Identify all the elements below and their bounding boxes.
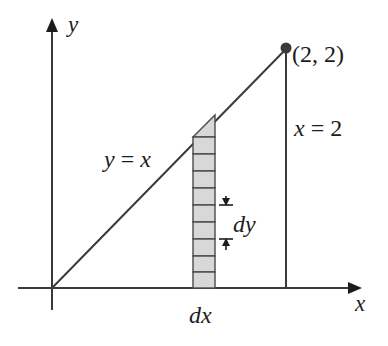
dy-measure	[219, 196, 233, 250]
region-boundaries	[52, 49, 286, 288]
strip-cell	[193, 272, 215, 288]
vertical-line-label: x = 2	[294, 116, 342, 140]
strip-cell	[193, 154, 215, 171]
point-label: (2, 2)	[292, 42, 344, 66]
strip-cell	[193, 188, 215, 205]
dx-label: dx	[189, 303, 212, 327]
math-figure: y x (2, 2) y = x x = 2 dx dy	[0, 0, 388, 346]
x-axis-label: x	[355, 292, 365, 315]
strip-cell	[193, 239, 215, 256]
strip-cell	[193, 137, 215, 154]
strip-cell	[193, 171, 215, 188]
y-axis-label: y	[68, 13, 78, 36]
line-y-equals-x	[52, 49, 286, 288]
strip-cell-top-triangle	[193, 115, 215, 137]
point-marker-2-2	[281, 43, 292, 54]
strip-cell	[193, 222, 215, 239]
strip-cell	[193, 256, 215, 272]
y-axis-arrowhead-icon	[46, 18, 58, 32]
strip-cell	[193, 205, 215, 222]
differential-strip	[193, 115, 215, 288]
line-equation-label: y = x	[104, 147, 151, 171]
dy-label: dy	[233, 212, 256, 236]
